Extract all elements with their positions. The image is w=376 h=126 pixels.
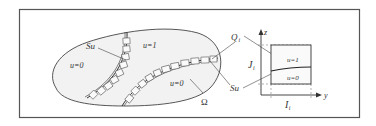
su-right-label: Su — [230, 83, 240, 93]
ii-label: Ii — [284, 99, 291, 111]
box-u1-label: u=1 — [287, 56, 299, 64]
box-u0-label: u=0 — [287, 74, 299, 82]
qi-label: Qi — [231, 32, 241, 43]
y-axis-arrow-icon — [316, 93, 322, 98]
su-to-box-leader — [243, 72, 275, 88]
su-left-label: Su — [86, 41, 96, 51]
z-axis-label: z — [263, 28, 268, 37]
diagram-canvas: Su u=1 u=0 u=0 Ω Qi Su z y u=1 u=0 Ji Ii — [0, 0, 376, 126]
u0-left-label: u=0 — [70, 61, 83, 70]
z-axis-arrow-icon — [259, 29, 264, 35]
omega-label: Ω — [201, 97, 208, 107]
y-axis-label: y — [323, 91, 328, 100]
zoom-panel: z y u=1 u=0 Ji Ii — [248, 28, 328, 111]
ji-label: Ji — [248, 59, 255, 71]
u1-main-label: u=1 — [143, 41, 156, 50]
u0-right-label: u=0 — [170, 79, 183, 88]
